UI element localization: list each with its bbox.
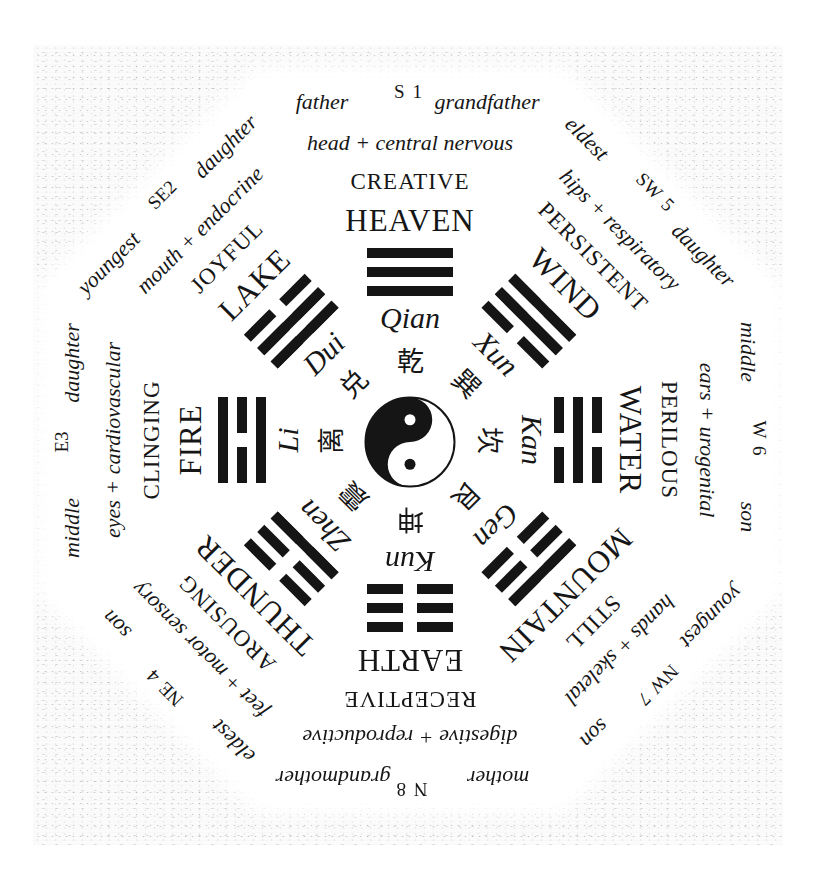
direction-label: SE2 xyxy=(144,177,180,213)
yin-yang-icon xyxy=(364,396,456,488)
family-relation-left: youngest xyxy=(73,228,144,299)
